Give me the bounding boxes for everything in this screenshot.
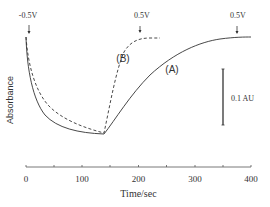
scale-bar-label: 0.1 AU: [231, 94, 254, 103]
arrow-down-icon: [28, 25, 31, 34]
scale-bar: [222, 69, 225, 125]
tick-label-200: 200: [132, 174, 146, 184]
tick-label-100: 100: [75, 174, 89, 184]
x-tick-labels: 0 100 200 300 400: [24, 174, 259, 184]
absorbance-chart: 0 100 200 300 400 Time/sec Absorbance (B…: [0, 0, 270, 207]
arrow-down-icon: [236, 26, 239, 34]
y-axis-label: Absorbance: [5, 76, 15, 124]
tick-label-300: 300: [188, 174, 202, 184]
tick-label-0: 0: [24, 174, 29, 184]
tick-label-400: 400: [244, 174, 258, 184]
annotation-b-potential: 0.5V: [134, 11, 150, 20]
series-label-b: (B): [116, 53, 129, 64]
arrow-down-icon: [139, 26, 142, 33]
curve-a: [26, 37, 251, 134]
series-label-a: (A): [165, 64, 178, 75]
curve-b: [26, 37, 160, 133]
x-axis-label: Time/sec: [120, 188, 157, 199]
annotation-start-potential: -0.5V: [19, 11, 38, 20]
annotation-a-potential: 0.5V: [230, 11, 246, 20]
